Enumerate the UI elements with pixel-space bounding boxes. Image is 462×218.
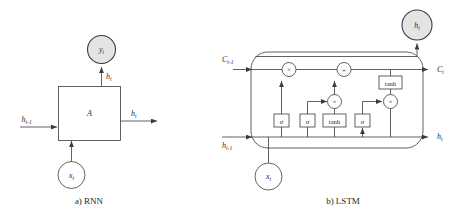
lstm-input-add-glyph: + bbox=[342, 67, 346, 75]
lstm-forget-gate-label: σ bbox=[280, 118, 284, 126]
panel-rnn: yt ht A ht-1 ht xt a) RNN bbox=[20, 36, 157, 207]
figure-rnn-lstm-comparison: yt ht A ht-1 ht xt a) RNN ht bbox=[0, 0, 462, 218]
lstm-output-gate-label: σ bbox=[361, 118, 365, 126]
diagram-canvas: yt ht A ht-1 ht xt a) RNN ht bbox=[0, 0, 462, 218]
lstm-cell-out-label: Ct bbox=[437, 65, 444, 75]
lstm-input-multiply-glyph: × bbox=[333, 98, 337, 106]
lstm-output-multiply-glyph: × bbox=[389, 98, 393, 106]
panel-lstm: ht Ct-1 Ct ht-1 ht σ × σ tanh bbox=[222, 10, 444, 206]
lstm-candidate-gate-label: tanh bbox=[329, 118, 341, 125]
lstm-cell-in-label: Ct-1 bbox=[222, 55, 234, 65]
rnn-hidden-up-label: ht bbox=[106, 72, 112, 82]
rnn-hidden-out-label: ht bbox=[131, 109, 137, 119]
lstm-caption: b) LSTM bbox=[326, 196, 360, 206]
rnn-hidden-in-label: ht-1 bbox=[22, 115, 32, 125]
lstm-hidden-out-label: ht bbox=[437, 132, 443, 142]
rnn-caption: a) RNN bbox=[75, 196, 104, 206]
lstm-input-gate-label: σ bbox=[306, 118, 310, 126]
rnn-cell-label: A bbox=[86, 109, 92, 118]
lstm-cell-tanh-label: tanh bbox=[385, 80, 397, 87]
lstm-hidden-in-label: ht-1 bbox=[222, 141, 232, 151]
lstm-forget-multiply-glyph: × bbox=[287, 66, 291, 74]
